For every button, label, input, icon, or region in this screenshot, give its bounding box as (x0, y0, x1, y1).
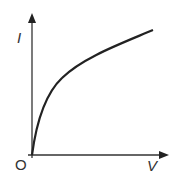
y-axis-arrow-icon (28, 13, 36, 23)
y-axis-label: I (17, 30, 21, 45)
iv-curve (32, 30, 153, 155)
x-axis-arrow-icon (159, 151, 169, 159)
origin-label: O (15, 157, 27, 172)
iv-diagram (0, 0, 180, 180)
x-axis-label: V (147, 158, 157, 173)
